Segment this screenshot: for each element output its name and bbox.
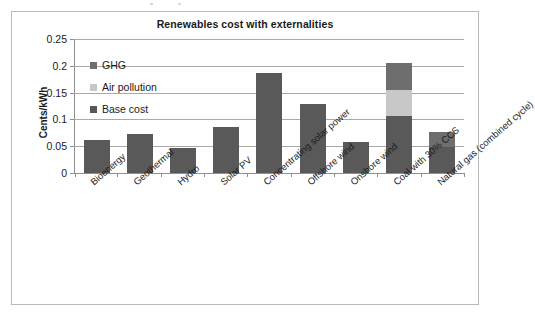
bar-segment-ghg[interactable] [386, 63, 412, 90]
y-axis-tick-mark [70, 146, 74, 147]
scan-artifact-speck [150, 3, 153, 5]
legend-swatch-icon [90, 106, 97, 113]
y-axis-tick-mark [70, 119, 74, 120]
bar-slot [205, 39, 248, 173]
bar-segment-air-pollution[interactable] [386, 90, 412, 116]
y-axis-tick-mark [70, 66, 74, 67]
bar-segment-base-cost[interactable] [256, 73, 282, 173]
y-axis-tick-label: 0.2 [52, 60, 67, 72]
chart-frame: Renewables cost with externalities Cents… [11, 11, 479, 305]
bar-stack[interactable] [256, 73, 282, 173]
legend-label: Air pollution [102, 81, 157, 93]
bar-slot [248, 39, 291, 173]
y-axis-tick-label: 0.1 [52, 113, 67, 125]
y-axis-tick-mark [70, 93, 74, 94]
legend-item[interactable]: Base cost [90, 98, 157, 120]
chart-legend: GHGAir pollutionBase cost [90, 54, 157, 120]
legend-item[interactable]: Air pollution [90, 76, 157, 98]
legend-swatch-icon [90, 84, 97, 91]
y-axis-tick-label: 0 [61, 167, 67, 179]
y-axis-tick-mark [70, 39, 74, 40]
y-axis-tick-label: 0.15 [47, 87, 67, 99]
legend-item[interactable]: GHG [90, 54, 157, 76]
legend-swatch-icon [90, 62, 97, 69]
legend-label: Base cost [102, 103, 148, 115]
chart-title: Renewables cost with externalities [12, 18, 478, 30]
y-axis-tick-label: 0.05 [47, 140, 67, 152]
legend-label: GHG [102, 59, 126, 71]
y-axis-tick-label: 0.25 [47, 33, 67, 45]
scan-artifact-speck [178, 3, 181, 5]
